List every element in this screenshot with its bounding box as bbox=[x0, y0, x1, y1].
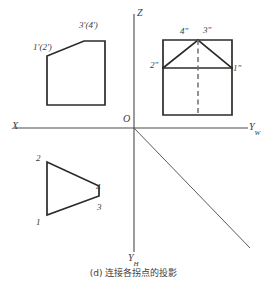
front-view-outline bbox=[47, 41, 105, 105]
axis-label-yw-subscript: W bbox=[255, 129, 261, 137]
axis-label-z: Z bbox=[137, 8, 143, 18]
bisector-45-line bbox=[134, 128, 250, 248]
top-view-label-1: 1 bbox=[36, 218, 41, 227]
figure-caption: (d) 连接各拐点的投影 bbox=[0, 266, 267, 279]
axis-label-yw-text: Y bbox=[249, 121, 255, 132]
side-view-label-1: 1" bbox=[233, 64, 241, 73]
front-view-label-3-4: 3'(4') bbox=[79, 21, 98, 30]
top-view-label-4: 4 bbox=[96, 183, 101, 192]
side-view-label-4: 4" bbox=[180, 27, 188, 36]
axis-label-yw: YW bbox=[249, 122, 260, 135]
front-view-label-1-2: 1'(2') bbox=[33, 43, 52, 52]
side-view-label-2: 2" bbox=[150, 61, 158, 70]
axis-label-yh-text: Y bbox=[128, 252, 134, 263]
axis-label-yh: YH bbox=[128, 253, 139, 266]
projection-figure: X Z YW YH O 1'(2') 3'(4') 4" 3" 2" 1" 2 … bbox=[0, 0, 267, 284]
axis-label-x: X bbox=[12, 121, 18, 131]
top-view-label-3: 3 bbox=[97, 203, 102, 212]
top-view-label-2: 2 bbox=[36, 154, 41, 163]
axis-label-origin: O bbox=[123, 114, 130, 124]
side-view-label-3: 3" bbox=[203, 26, 211, 35]
top-view-outline bbox=[47, 162, 99, 215]
